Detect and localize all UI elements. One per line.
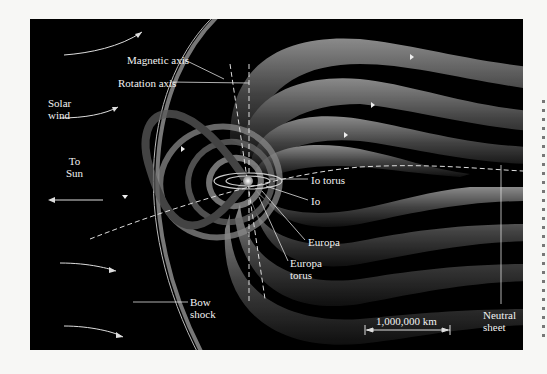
label-solar-wind-line1: Solar (48, 97, 71, 109)
label-rotation-axis: Rotation axis (118, 77, 176, 89)
label-solar-wind: Solar wind (48, 97, 71, 121)
label-neutral-sheet: Neutral sheet (483, 309, 516, 333)
label-europa-torus-line1: Europa (290, 257, 322, 269)
label-io: Io (311, 195, 320, 207)
label-bow-shock-line2: shock (190, 308, 216, 320)
label-bow-shock-line1: Bow (190, 296, 216, 308)
jupiter (243, 176, 253, 186)
magnetosphere-diagram: Solar wind To Sun Magnetic axis Rotation… (30, 19, 523, 350)
label-neutral-sheet-line2: sheet (483, 321, 516, 333)
label-to-sun-line2: Sun (66, 167, 83, 179)
label-to-sun-line1: To (66, 155, 83, 167)
to-sun-arrow (48, 197, 103, 203)
label-europa-torus: Europa torus (290, 257, 322, 281)
label-scale: 1,000,000 km (376, 315, 437, 327)
label-europa-torus-line2: torus (290, 269, 322, 281)
diagram-artwork (30, 19, 523, 350)
page-edge-text-fragment (542, 100, 545, 340)
label-neutral-sheet-line1: Neutral (483, 309, 516, 321)
label-io-torus: Io torus (311, 174, 345, 186)
label-to-sun: To Sun (66, 155, 83, 179)
label-europa: Europa (308, 236, 340, 248)
label-magnetic-axis: Magnetic axis (127, 54, 189, 66)
label-bow-shock: Bow shock (190, 296, 216, 320)
label-solar-wind-line2: wind (48, 109, 71, 121)
